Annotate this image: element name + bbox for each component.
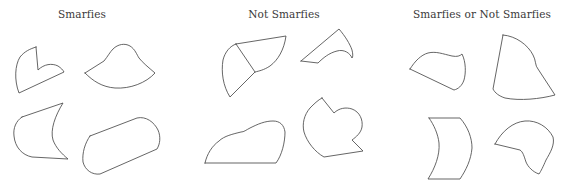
smarfie-shape-2 (85, 44, 155, 88)
smarfie-shape-1 (16, 47, 64, 93)
not-smarfie-shape-1 (222, 36, 286, 97)
unknown-shape-2 (493, 35, 555, 99)
unknown-shape-3 (428, 118, 472, 179)
smarfies-figure: Smarfies Not Smarfies Smarfies or Not Sm… (0, 0, 567, 194)
smarfie-shape-4 (83, 118, 160, 175)
unknown-shape-1 (410, 52, 465, 90)
panel-not-smarfies (205, 29, 363, 163)
smarfie-shape-3 (14, 103, 68, 159)
shapes-layer (0, 0, 567, 194)
unknown-shape-4 (495, 121, 553, 174)
not-smarfie-shape-2 (301, 29, 353, 63)
panel-smarfies (14, 44, 160, 174)
not-smarfie-shape-3 (205, 121, 285, 163)
not-smarfie-shape-4 (303, 98, 363, 157)
panel-smarfies-or-not (410, 35, 555, 179)
not-smarfie-shape-1-divider (236, 44, 255, 72)
